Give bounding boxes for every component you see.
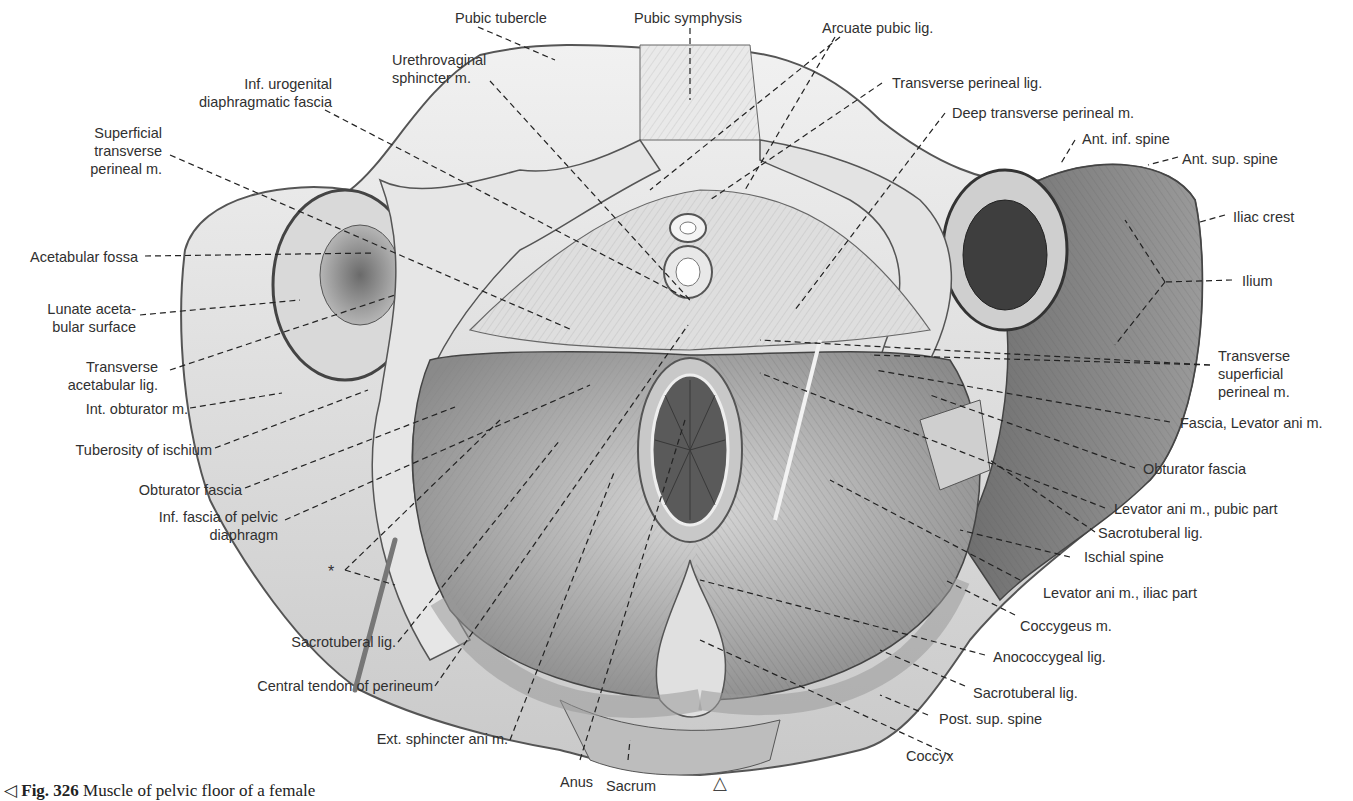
label-pubic-symphysis: Pubic symphysis	[634, 9, 742, 27]
label-levator-ani-pubic: Levator ani m., pubic part	[1114, 500, 1278, 518]
label-ant-sup-spine: Ant. sup. spine	[1182, 150, 1278, 168]
label-int-obturator: Int. obturator m.	[40, 400, 188, 418]
label-sacrum: Sacrum	[606, 777, 656, 795]
caption-text: Muscle of pelvic floor of a female	[83, 781, 315, 800]
label-ilium: Ilium	[1242, 272, 1273, 290]
label-inf-urogenital-fascia: Inf. urogenital diaphragmatic fascia	[172, 75, 332, 111]
label-obturator-fascia-right: Obturator fascia	[1143, 460, 1246, 478]
label-coccyx: Coccyx	[906, 747, 954, 765]
label-superficial-transverse-perineal: Superficial transverse perineal m.	[60, 124, 162, 178]
label-anus: Anus	[560, 773, 593, 791]
label-acetabular-fossa: Acetabular fossa	[0, 248, 138, 266]
label-central-tendon-perineum: Central tendon of perineum	[200, 677, 433, 695]
label-sacrotuberal-lig-left: Sacrotuberal lig.	[210, 633, 396, 651]
label-pubic-tubercle: Pubic tubercle	[455, 9, 547, 27]
label-fascia-levator-ani: Fascia, Levator ani m.	[1180, 414, 1323, 432]
label-anococcygeal-lig: Anococcygeal lig.	[993, 648, 1106, 666]
label-deep-transverse-perineal: Deep transverse perineal m.	[952, 104, 1134, 122]
label-urethrovaginal-sphincter: Urethrovaginal sphincter m.	[392, 51, 486, 87]
label-ischial-spine: Ischial spine	[1084, 548, 1164, 566]
label-transverse-superficial-perineal: Transverse superficial perineal m.	[1218, 347, 1290, 401]
label-sacrotuberal-lig-right-lower: Sacrotuberal lig.	[973, 684, 1078, 702]
caption-number: Fig. 326	[21, 781, 79, 800]
label-coccygeus: Coccygeus m.	[1020, 617, 1112, 635]
label-ext-sphincter-ani: Ext. sphincter ani m.	[300, 730, 508, 748]
orientation-triangle-icon: △	[713, 772, 727, 794]
label-iliac-crest: Iliac crest	[1233, 208, 1294, 226]
label-obturator-fascia-left: Obturator fascia	[60, 481, 242, 499]
label-lunate-surface: Lunate aceta- bular surface	[20, 300, 136, 336]
label-tuberosity-ischium: Tuberosity of ischium	[20, 441, 212, 459]
label-post-sup-spine: Post. sup. spine	[939, 710, 1042, 728]
label-inf-fascia-pelvic-diaphragm: Inf. fascia of pelvic diaphragm	[60, 508, 278, 544]
label-asterisk: *	[328, 563, 334, 581]
label-levator-ani-iliac: Levator ani m., iliac part	[1043, 584, 1197, 602]
label-arcuate-pubic-lig: Arcuate pubic lig.	[822, 19, 933, 37]
figure-caption: ◁ Fig. 326 Muscle of pelvic floor of a f…	[4, 780, 315, 801]
label-transverse-acetabular-lig: Transverse acetabular lig.	[30, 358, 158, 394]
label-transverse-perineal-lig: Transverse perineal lig.	[892, 74, 1042, 92]
caption-pointer-icon: ◁	[4, 781, 17, 800]
label-ant-inf-spine: Ant. inf. spine	[1082, 130, 1170, 148]
label-sacrotuberal-lig-right-upper: Sacrotuberal lig.	[1098, 524, 1203, 542]
